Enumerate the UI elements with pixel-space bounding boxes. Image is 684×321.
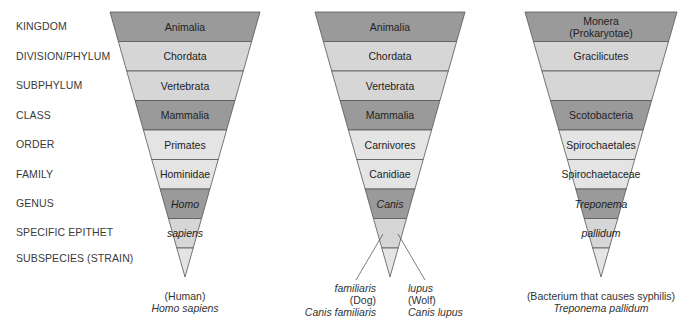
caption-dog: familiaris (Dog) Canis familiaris xyxy=(290,282,376,318)
band-human-9 xyxy=(177,248,193,277)
band-label: Carnivores xyxy=(365,139,416,151)
band-label: Scotobacteria xyxy=(569,109,633,121)
caption-human-common: (Human) xyxy=(125,290,245,302)
band-label: Primates xyxy=(164,139,205,151)
band-label: Animalia xyxy=(370,21,410,33)
band-label: Vertebrata xyxy=(366,80,415,92)
caption-dog-scientific: Canis familiaris xyxy=(290,306,376,318)
band-label: Animalia xyxy=(165,21,205,33)
band-label: Monera xyxy=(583,15,619,27)
band-label: Chordata xyxy=(163,50,206,62)
band-dog-wolf-9 xyxy=(382,248,398,277)
caption-human: (Human) Homo sapiens xyxy=(125,290,245,314)
band-label: Spirochaetaceae xyxy=(562,168,641,180)
band-label-secondary: (Prokaryotae) xyxy=(569,27,633,39)
caption-human-scientific: Homo sapiens xyxy=(125,302,245,314)
band-label: sapiens xyxy=(167,227,204,239)
pointer-line-dog xyxy=(356,234,383,280)
caption-bacterium: (Bacterium that causes syphilis) Trepone… xyxy=(516,290,684,314)
band-label: Chordata xyxy=(368,50,411,62)
band-label: Hominidae xyxy=(160,168,210,180)
band-label: Vertebrata xyxy=(161,80,210,92)
funnel-dog-wolf: AnimaliaChordataVertebrataMammaliaCarniv… xyxy=(315,12,465,277)
taxonomy-funnels: AnimaliaChordataVertebrataMammaliaPrimat… xyxy=(0,0,684,321)
band-syphilis-bacterium-9 xyxy=(593,248,610,277)
band-dog-wolf-8 xyxy=(373,219,406,249)
funnel-syphilis-bacterium: Monera(Prokaryotae)GracilicutesScotobact… xyxy=(525,12,677,277)
pointer-line-wolf xyxy=(398,234,425,280)
caption-wolf-common: (Wolf) xyxy=(408,294,488,306)
band-label: Gracilicutes xyxy=(574,50,629,62)
funnel-human: AnimaliaChordataVertebrataMammaliaPrimat… xyxy=(110,12,260,277)
caption-dog-common: (Dog) xyxy=(290,294,376,306)
band-label: Mammalia xyxy=(161,109,210,121)
band-label: Spirochaetales xyxy=(566,139,635,151)
band-label: Treponema xyxy=(575,198,628,210)
band-label: Homo xyxy=(171,198,199,210)
caption-wolf-epithet: lupus xyxy=(408,282,488,294)
band-label: Canidiae xyxy=(369,168,411,180)
caption-bacterium-common: (Bacterium that causes syphilis) xyxy=(516,290,684,302)
band-syphilis-bacterium-3 xyxy=(542,71,660,101)
caption-dog-epithet: familiaris xyxy=(290,282,376,294)
band-label: pallidum xyxy=(580,227,620,239)
caption-bacterium-scientific: Treponema pallidum xyxy=(516,302,684,314)
caption-wolf: lupus (Wolf) Canis lupus xyxy=(408,282,488,318)
band-label: Canis xyxy=(377,198,405,210)
band-label: Mammalia xyxy=(366,109,415,121)
caption-wolf-scientific: Canis lupus xyxy=(408,306,488,318)
